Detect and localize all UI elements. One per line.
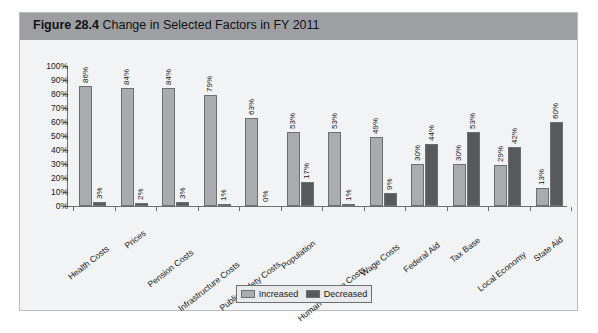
- x-axis-tick-mark: [322, 207, 323, 211]
- x-axis-category-label: Health Costs: [67, 244, 111, 281]
- y-axis-tick-label: 10%: [30, 188, 68, 196]
- bar-value-label: 0%: [262, 190, 270, 202]
- y-axis-tick-label: 50%: [30, 132, 68, 140]
- y-axis-tick-label: 40%: [30, 146, 68, 154]
- x-axis-category-label: State Aid: [532, 235, 565, 263]
- bar-value-label: 49%: [372, 118, 380, 134]
- legend-swatch-increased: [241, 290, 255, 298]
- legend-label-increased: Increased: [259, 289, 299, 299]
- bar-increased[interactable]: 84%: [121, 88, 134, 206]
- x-axis-tick-mark: [405, 207, 406, 211]
- bar-value-label: 30%: [414, 145, 422, 161]
- bar-value-label: 53%: [331, 113, 339, 129]
- y-axis-tick: 60%: [20, 122, 68, 123]
- x-axis-category-label: Prices: [123, 229, 147, 251]
- bar-value-label: 17%: [303, 163, 311, 179]
- figure-header-band: Figure 28.4 Change in Selected Factors i…: [20, 13, 577, 40]
- x-axis-category-label: Population: [279, 239, 317, 271]
- bar-decreased[interactable]: 1%: [342, 204, 355, 206]
- bar-increased[interactable]: 84%: [162, 88, 175, 206]
- bar-increased[interactable]: 13%: [536, 188, 549, 206]
- y-axis-tick: 70%: [20, 108, 68, 109]
- legend-item-decreased: Decreased: [306, 289, 368, 299]
- y-axis-tick: 30%: [20, 164, 68, 165]
- figure-caption: Figure 28.4 Change in Selected Factors i…: [33, 18, 320, 32]
- x-axis-tick-mark: [156, 207, 157, 211]
- y-axis-tick-label: 80%: [30, 90, 68, 98]
- x-axis-category-label: Local Economy: [476, 250, 528, 293]
- y-axis-tick-label: 0%: [30, 202, 68, 210]
- bar-decreased[interactable]: 2%: [135, 203, 148, 206]
- bar-value-label: 60%: [552, 103, 560, 119]
- bar-value-label: 53%: [289, 113, 297, 129]
- bar-decreased[interactable]: 17%: [301, 182, 314, 206]
- bar-value-label: 1%: [220, 189, 228, 201]
- x-axis-category-label: Pension Costs: [146, 248, 195, 289]
- bar-increased[interactable]: 29%: [494, 165, 507, 206]
- y-axis-tick: 80%: [20, 94, 68, 95]
- y-axis-tick-label: 90%: [30, 76, 68, 84]
- x-axis-tick-mark: [115, 207, 116, 211]
- bar-value-label: 86%: [82, 67, 90, 83]
- x-axis-category-label: Federal Aid: [402, 241, 442, 275]
- bar-value-label: 42%: [511, 128, 519, 144]
- bar-value-label: 2%: [137, 189, 145, 201]
- bar-value-label: 44%: [428, 125, 436, 141]
- bar-value-label: 84%: [123, 69, 131, 85]
- bar-decreased[interactable]: 42%: [508, 147, 521, 206]
- y-axis-tick: 0%: [20, 206, 68, 207]
- y-axis-tick: 100%: [20, 66, 68, 67]
- y-axis-tick: 40%: [20, 150, 68, 151]
- bar-increased[interactable]: 49%: [370, 137, 383, 206]
- bar-decreased[interactable]: 53%: [467, 132, 480, 206]
- bar-decreased[interactable]: 1%: [218, 204, 231, 206]
- x-axis-category-label: Wage Costs: [359, 243, 401, 279]
- legend-swatch-decreased: [306, 290, 320, 298]
- y-axis-tick: 90%: [20, 80, 68, 81]
- bar-increased[interactable]: 30%: [411, 164, 424, 206]
- bar-value-label: 53%: [469, 113, 477, 129]
- y-axis-tick-label: 70%: [30, 104, 68, 112]
- bar-value-label: 84%: [165, 69, 173, 85]
- bar-value-label: 29%: [497, 146, 505, 162]
- figure-container: Figure 28.4 Change in Selected Factors i…: [19, 12, 578, 311]
- bar-decreased[interactable]: 3%: [93, 202, 106, 206]
- legend-label-decreased: Decreased: [324, 289, 368, 299]
- bar-increased[interactable]: 53%: [328, 132, 341, 206]
- chart-plot-area: 0%10%20%30%40%50%60%70%80%90%100% 86%3%8…: [20, 40, 577, 312]
- y-axis-tick: 10%: [20, 192, 68, 193]
- bar-value-label: 30%: [455, 145, 463, 161]
- bar-increased[interactable]: 53%: [287, 132, 300, 206]
- x-axis-tick-mark: [364, 207, 365, 211]
- bar-value-label: 79%: [206, 76, 214, 92]
- figure-number: Figure 28.4: [33, 18, 99, 32]
- x-axis-tick-mark: [488, 207, 489, 211]
- bar-value-label: 1%: [345, 189, 353, 201]
- bar-value-label: 13%: [538, 169, 546, 185]
- bar-increased[interactable]: 86%: [79, 86, 92, 206]
- bar-increased[interactable]: 63%: [245, 118, 258, 206]
- x-axis-tick-mark: [73, 207, 74, 211]
- x-axis-tick-mark: [198, 207, 199, 211]
- x-axis-tick-mark: [447, 207, 448, 211]
- x-axis-tick-mark: [281, 207, 282, 211]
- x-axis-category-label: Tax Base: [448, 236, 481, 265]
- legend-item-increased: Increased: [241, 289, 299, 299]
- bar-increased[interactable]: 30%: [453, 164, 466, 206]
- figure-title: Change in Selected Factors in FY 2011: [102, 18, 319, 32]
- bar-value-label: 3%: [96, 187, 104, 199]
- y-axis-tick-label: 20%: [30, 174, 68, 182]
- y-axis-tick-label: 30%: [30, 160, 68, 168]
- bar-decreased[interactable]: 60%: [550, 122, 563, 206]
- x-axis-tick-mark: [239, 207, 240, 211]
- bar-decreased[interactable]: 9%: [384, 193, 397, 206]
- x-axis-line: [67, 206, 567, 207]
- y-axis-tick-label: 100%: [30, 62, 68, 70]
- bar-decreased[interactable]: 44%: [425, 144, 438, 206]
- y-axis-tick: 20%: [20, 178, 68, 179]
- bar-increased[interactable]: 79%: [204, 95, 217, 206]
- x-axis-tick-mark: [530, 207, 531, 211]
- chart-legend: Increased Decreased: [236, 285, 372, 303]
- bar-decreased[interactable]: 3%: [176, 202, 189, 206]
- y-axis-tick: 50%: [20, 136, 68, 137]
